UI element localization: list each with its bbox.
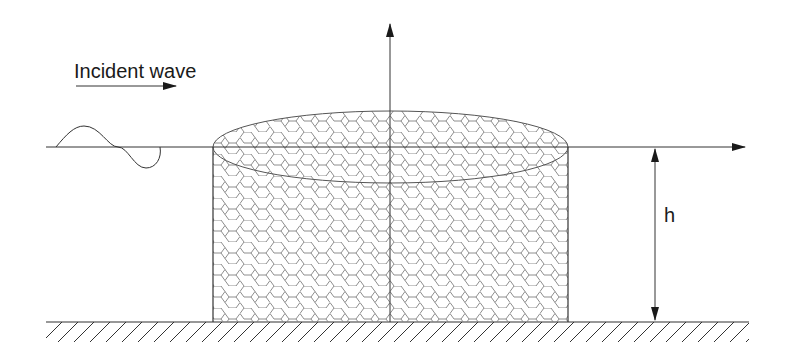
depth-h-label: h [664, 204, 675, 227]
seabed [46, 322, 749, 342]
incident-wave-label: Incident wave [74, 60, 196, 83]
cylinder-wave-diagram [0, 0, 788, 361]
